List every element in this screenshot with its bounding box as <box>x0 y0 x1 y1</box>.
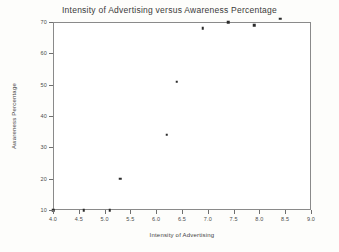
y-axis-tick <box>49 22 53 23</box>
y-axis-tick <box>49 116 53 117</box>
y-axis-tick <box>49 147 53 148</box>
x-axis-tick-label: 5.5 <box>126 216 134 222</box>
data-point <box>165 134 168 137</box>
data-point <box>83 209 86 212</box>
x-axis-tick-label: 4.5 <box>75 216 83 222</box>
y-axis-tick-label: 10 <box>31 207 47 213</box>
data-point <box>119 177 122 180</box>
x-axis-tick <box>130 210 131 214</box>
x-axis-tick-label: 8.0 <box>255 216 263 222</box>
x-axis-tick-label: 8.5 <box>281 216 289 222</box>
x-axis-tick <box>311 210 312 214</box>
data-point <box>176 80 179 83</box>
data-point <box>201 27 204 30</box>
y-axis-tick <box>49 210 53 211</box>
x-axis-tick <box>105 210 106 214</box>
x-axis-tick-label: 9.0 <box>307 216 315 222</box>
x-axis-tick <box>285 210 286 214</box>
data-point <box>109 209 112 212</box>
x-axis-tick <box>156 210 157 214</box>
data-points-layer <box>53 22 311 210</box>
x-axis-tick <box>234 210 235 214</box>
y-axis-tick-label: 70 <box>31 19 47 25</box>
data-point <box>253 24 256 27</box>
x-axis-tick <box>182 210 183 214</box>
chart-title: Intensity of Advertising versus Awarenes… <box>0 5 339 15</box>
x-axis-tick <box>259 210 260 214</box>
x-axis-tick-label: 6.0 <box>152 216 160 222</box>
x-axis-tick <box>79 210 80 214</box>
y-axis-tick-label: 50 <box>31 82 47 88</box>
y-axis-tick <box>49 85 53 86</box>
x-axis-tick-label: 6.5 <box>178 216 186 222</box>
y-axis-tick <box>49 179 53 180</box>
y-axis-tick <box>49 53 53 54</box>
x-axis-tick <box>53 210 54 214</box>
y-axis-tick-label: 20 <box>31 176 47 182</box>
x-axis-tick <box>208 210 209 214</box>
y-axis-tick-label: 30 <box>31 144 47 150</box>
y-axis-tick-label: 60 <box>31 50 47 56</box>
x-axis-title: Intensity of Advertising <box>53 232 311 238</box>
data-point <box>227 21 230 24</box>
x-axis-tick-label: 4.0 <box>49 216 57 222</box>
x-axis-tick-label: 7.0 <box>204 216 212 222</box>
data-point <box>279 18 282 21</box>
x-axis-tick-label: 7.5 <box>229 216 237 222</box>
x-axis-tick-label: 5.0 <box>100 216 108 222</box>
y-axis-title: Awareness Percentage <box>11 83 17 149</box>
scatter-chart: Intensity of Advertising versus Awarenes… <box>0 0 339 252</box>
y-axis-tick-label: 40 <box>31 113 47 119</box>
